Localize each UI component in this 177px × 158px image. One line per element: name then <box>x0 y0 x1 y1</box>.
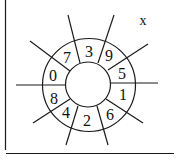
ring-number-left-lower: 8 <box>50 90 58 107</box>
ring-number-left-upper: 0 <box>49 67 57 84</box>
ring-number-top-right: 9 <box>105 47 113 64</box>
ring-number-right-upper: 5 <box>118 65 126 82</box>
ring-number-top-left: 7 <box>63 49 71 66</box>
ring-number-bottom-right: 6 <box>106 106 114 123</box>
variable-label-x: x <box>140 13 147 28</box>
ring-number-bottom: 2 <box>83 112 91 129</box>
ring-number-top: 3 <box>85 43 93 60</box>
inner-circle <box>66 62 111 107</box>
ring-number-right-lower: 1 <box>119 86 127 103</box>
ring-number-bottom-left: 4 <box>62 104 70 121</box>
spoke-upper-right <box>108 44 148 70</box>
number-wheel-figure: x 3 9 5 1 6 2 4 8 0 7 <box>0 0 177 158</box>
